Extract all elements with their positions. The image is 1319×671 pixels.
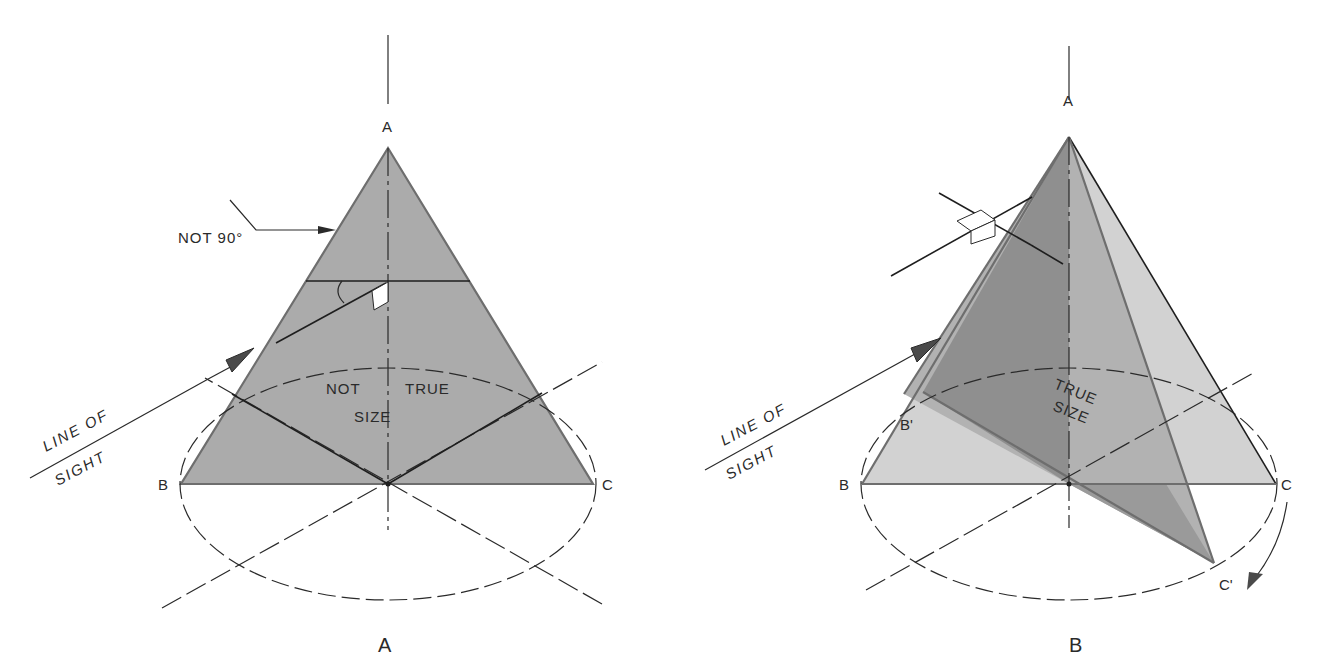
vertex-label-b-prime: B' <box>900 416 913 433</box>
not-true-size-word-not: NOT <box>326 380 361 397</box>
line-of-sight-label-line2: SIGHT <box>51 447 108 488</box>
figure-a-drawing: A B C NOT 90° NOT TRUE SIZE LINE OF SIGH… <box>0 0 660 671</box>
rotation-arrow-arc <box>1255 502 1287 578</box>
vertex-label-c: C <box>1281 476 1292 493</box>
vertex-label-c: C <box>602 476 613 493</box>
plane-abc <box>181 148 593 484</box>
not-true-size-word-true: TRUE <box>405 380 450 397</box>
not-true-size-word-size: SIZE <box>354 408 391 425</box>
angle-leader-line <box>230 200 318 230</box>
figure-b-drawing: A B C B' C' TRUE SIZE LINE OF SIGHT B <box>659 0 1319 671</box>
vertex-label-b: B <box>839 476 849 493</box>
leader-arrowhead <box>318 226 336 234</box>
figure-b-true-size: A B C B' C' TRUE SIZE LINE OF SIGHT B <box>659 0 1319 671</box>
center-point <box>1067 482 1072 487</box>
figure-b-caption: B <box>1069 634 1082 656</box>
vertex-label-b: B <box>158 476 168 493</box>
vertex-label-a: A <box>382 118 392 135</box>
line-of-sight-arrowhead <box>226 348 254 372</box>
rotation-arrowhead <box>1247 572 1263 590</box>
line-of-sight-label-line1: LINE OF <box>717 400 789 449</box>
vertex-label-a: A <box>1063 92 1073 109</box>
line-of-sight-label-line2: SIGHT <box>722 441 779 482</box>
center-point <box>386 482 391 487</box>
not-90-label: NOT 90° <box>178 229 243 246</box>
figure-a-not-true-size: A B C NOT 90° NOT TRUE SIZE LINE OF SIGH… <box>0 0 660 671</box>
vertex-label-c-prime: C' <box>1219 576 1233 593</box>
figure-a-caption: A <box>378 634 392 656</box>
